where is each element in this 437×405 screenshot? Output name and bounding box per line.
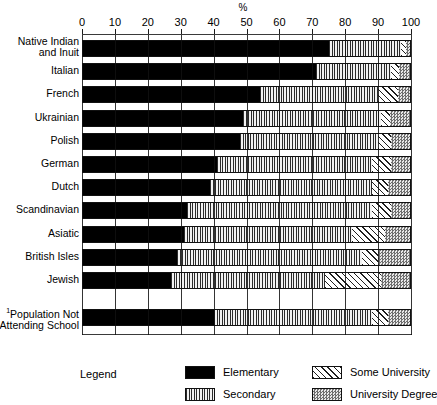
- x-tick-mark: [148, 29, 149, 34]
- gridline: [214, 35, 215, 335]
- gridline: [115, 35, 116, 335]
- x-tick-label: 70: [299, 16, 325, 28]
- bar-segment: [399, 63, 411, 80]
- bar-segment: [352, 226, 385, 243]
- x-tick-mark: [247, 29, 248, 34]
- legend-swatch: [185, 388, 215, 401]
- legend-label: Secondary: [223, 388, 276, 401]
- x-tick-label: 30: [168, 16, 194, 28]
- gridline: [378, 35, 379, 335]
- category-label: Ukrainian: [35, 112, 79, 123]
- bar-segment: [177, 249, 361, 266]
- x-tick-mark: [279, 29, 280, 34]
- bar-segment: [82, 249, 177, 266]
- bar-segment: [329, 40, 401, 57]
- bar-segment: [82, 226, 184, 243]
- bar-segment: [388, 309, 411, 326]
- gridline: [181, 35, 182, 335]
- category-label: Polish: [50, 135, 79, 146]
- legend-label: University Degree: [350, 388, 437, 401]
- legend-entry[interactable]: Secondary: [185, 388, 305, 402]
- category-label: French: [46, 88, 79, 99]
- x-tick-mark: [378, 29, 379, 34]
- gridline: [82, 35, 83, 335]
- bar-segment: [82, 110, 243, 127]
- bar-segment: [325, 272, 381, 289]
- x-tick-mark: [214, 29, 215, 34]
- bar-segment: [82, 202, 187, 219]
- legend-label: Elementary: [223, 366, 279, 379]
- gridline: [279, 35, 280, 335]
- bar-segment: [390, 110, 411, 127]
- bar-segment: [184, 226, 352, 243]
- category-label: Scandinavian: [16, 204, 79, 215]
- x-tick-mark: [345, 29, 346, 34]
- legend-entry[interactable]: Elementary: [185, 366, 305, 380]
- gridline: [312, 35, 313, 335]
- bar-segment: [82, 86, 260, 103]
- x-tick-label: 60: [266, 16, 292, 28]
- bar-segment: [82, 272, 171, 289]
- gridline: [148, 35, 149, 335]
- legend-swatch: [185, 366, 215, 379]
- x-tick-mark: [312, 29, 313, 34]
- bar-segment: [82, 179, 210, 196]
- bar-segment: [391, 63, 399, 80]
- bar-segment: [316, 63, 392, 80]
- legend-swatch: [312, 366, 342, 379]
- x-tick-label: 80: [332, 16, 358, 28]
- bar-segment: [388, 179, 411, 196]
- legend-entry[interactable]: Some University: [312, 366, 432, 380]
- x-tick-mark: [411, 29, 412, 34]
- bar-segment: [82, 40, 329, 57]
- bar-segment: [210, 179, 371, 196]
- bar-segment: [391, 156, 411, 173]
- bar-segment: [372, 156, 392, 173]
- x-tick-mark: [82, 29, 83, 34]
- bar-segment: [217, 156, 372, 173]
- bar-segment: [171, 272, 326, 289]
- legend-title: Legend: [80, 368, 117, 380]
- legend-entry[interactable]: University Degree: [312, 388, 432, 402]
- bar-segment: [82, 156, 217, 173]
- bar-segment: [378, 86, 398, 103]
- x-tick-label: 90: [365, 16, 391, 28]
- legend-label: Some University: [350, 366, 430, 379]
- x-tick-label: 50: [234, 16, 260, 28]
- bar-segment: [378, 249, 411, 266]
- gridline: [345, 35, 346, 335]
- legend-swatch: [312, 388, 342, 401]
- bar-segment: [372, 179, 388, 196]
- bar-segment: [398, 86, 411, 103]
- bar-segment: [362, 249, 378, 266]
- gridline: [411, 35, 412, 335]
- bar-segment: [372, 309, 388, 326]
- x-tick-label: 0: [69, 16, 95, 28]
- category-label: Native Indianand Inuit: [18, 36, 79, 58]
- category-label: 1Population NotAttending School: [0, 305, 79, 331]
- bar-segment: [391, 202, 411, 219]
- x-tick-label: 100: [398, 16, 424, 28]
- x-tick-mark: [181, 29, 182, 34]
- category-label: Asiatic: [48, 228, 79, 239]
- bar-segment: [240, 133, 378, 150]
- bar-segment: [260, 86, 378, 103]
- bar-segment: [82, 133, 240, 150]
- x-tick-label: 10: [102, 16, 128, 28]
- x-tick-mark: [115, 29, 116, 34]
- bar-segment: [214, 309, 372, 326]
- bar-segment: [372, 202, 392, 219]
- bar-segment: [82, 63, 316, 80]
- category-label: Italian: [51, 65, 79, 76]
- category-label: German: [41, 158, 79, 169]
- gridline: [247, 35, 248, 335]
- axis-unit-label: %: [236, 2, 250, 13]
- category-label: British Isles: [25, 251, 79, 262]
- bar-segment: [381, 272, 411, 289]
- bar-segment: [391, 133, 411, 150]
- x-tick-label: 20: [135, 16, 161, 28]
- x-tick-label: 40: [201, 16, 227, 28]
- legend: Legend ElementarySecondarySome Universit…: [0, 360, 418, 405]
- category-label: Dutch: [52, 181, 79, 192]
